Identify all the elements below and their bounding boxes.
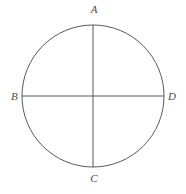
vertex-label-c: C: [0, 173, 186, 184]
vertex-label-a: A: [0, 4, 186, 15]
circle-diagram-canvas: [0, 0, 186, 194]
circle-diagram-figure: A B C D: [0, 0, 186, 194]
vertex-label-b: B: [11, 91, 18, 102]
vertex-label-d: D: [168, 91, 176, 102]
